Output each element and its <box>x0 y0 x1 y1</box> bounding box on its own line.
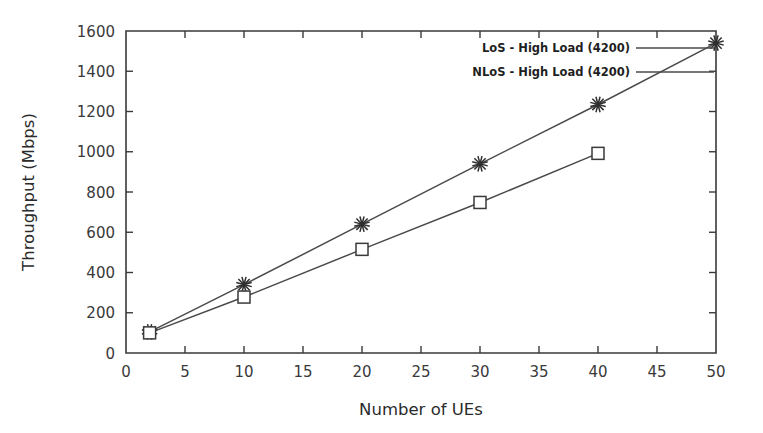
data-point-square <box>474 196 486 208</box>
y-tick-label: 400 <box>86 264 115 282</box>
x-tick-label: 5 <box>180 363 190 381</box>
chart-figure: 05101520253035404550 0200400600800100012… <box>0 0 763 433</box>
data-point-square <box>144 327 156 339</box>
y-tick-label: 200 <box>86 304 115 322</box>
x-tick-label: 35 <box>529 363 548 381</box>
x-tick-label: 25 <box>411 363 430 381</box>
y-tick-label: 800 <box>86 184 115 202</box>
y-tick-label: 1600 <box>77 23 115 41</box>
y-axis-label: Throughput (Mbps) <box>19 113 38 272</box>
x-tick-label: 0 <box>121 363 131 381</box>
y-tick-label: 600 <box>86 224 115 242</box>
x-tick-label: 15 <box>293 363 312 381</box>
x-tick-label: 50 <box>706 363 725 381</box>
x-tick-label: 40 <box>588 363 607 381</box>
y-tick-label: 1000 <box>77 143 115 161</box>
x-tick-label: 30 <box>470 363 489 381</box>
legend-label-2: NLoS - High Load (4200) <box>472 65 630 79</box>
y-tick-label: 1400 <box>77 63 115 81</box>
data-point-square <box>238 291 250 303</box>
legend-label-1: LoS - High Load (4200) <box>482 41 630 55</box>
x-tick-label: 20 <box>352 363 371 381</box>
data-point-square <box>356 243 368 255</box>
x-axis-label: Number of UEs <box>359 400 483 419</box>
y-tick-label: 1200 <box>77 103 115 121</box>
line-chart-svg: 05101520253035404550 0200400600800100012… <box>0 0 763 433</box>
y-tick-label: 0 <box>105 345 115 363</box>
x-tick-label: 10 <box>234 363 253 381</box>
data-point-square <box>592 147 604 159</box>
x-tick-label: 45 <box>647 363 666 381</box>
